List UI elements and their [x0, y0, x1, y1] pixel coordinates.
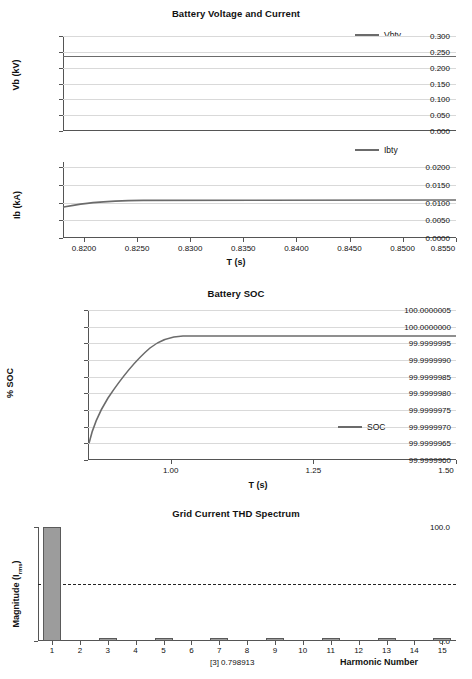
y-tick-label: 0.100 — [430, 95, 450, 104]
gridline — [63, 99, 456, 100]
x-tick-label: 0.8450 — [337, 244, 361, 253]
x-tick-label: 0.8300 — [178, 244, 202, 253]
chart-battery-current: Ibty Ib (kA) 0.0200 0.0150 0.0100 0.0050… — [0, 145, 472, 280]
y-tick — [59, 52, 63, 53]
legend-swatch-soc — [338, 426, 362, 428]
x-tick — [359, 641, 360, 645]
x-tick — [171, 460, 172, 464]
x-tick-label: 8 — [245, 646, 249, 655]
bar-harmonic-1 — [43, 527, 61, 641]
legend-label-soc: SOC — [367, 422, 385, 432]
y-tick — [59, 84, 63, 85]
x-tick-label: 1.00 — [163, 466, 179, 475]
y-tick-label: 0.150 — [430, 79, 450, 88]
x-tick — [80, 641, 81, 645]
thd-simulation-scope-window: Battery Voltage and Current Vbty Vb (kV)… — [0, 0, 472, 679]
x-tick — [414, 641, 415, 645]
axis-label-soc: % SOC — [5, 360, 15, 406]
x-tick-label: 0.8550 — [431, 244, 455, 253]
x-tick — [191, 641, 192, 645]
gridline — [63, 68, 456, 69]
x-tick-label: 0.8500 — [390, 244, 414, 253]
x-tick-label: 0.8250 — [125, 244, 149, 253]
y-tick — [59, 131, 63, 132]
axis-label-t-soc: T (s) — [60, 480, 456, 490]
thd-threshold-line — [38, 584, 456, 585]
series-trace-soc — [88, 310, 456, 460]
x-tick — [275, 641, 276, 645]
x-tick — [243, 238, 244, 242]
x-tick — [296, 238, 297, 242]
axis-label-t-current: T (s) — [0, 257, 472, 267]
plot-area-battery-soc: 100.0000005 100.0000000 99.9999995 99.99… — [88, 310, 456, 460]
x-tick-label: 12 — [354, 646, 363, 655]
x-tick — [52, 641, 53, 645]
x-tick — [247, 641, 248, 645]
chart-title-battery-voltage: Battery Voltage and Current — [0, 8, 472, 19]
x-tick-label: 11 — [327, 646, 335, 655]
x-tick-label: 2 — [78, 646, 82, 655]
x-tick — [387, 641, 388, 645]
x-tick — [108, 641, 109, 645]
x-tick — [190, 238, 191, 242]
chart-battery-soc: Battery SOC % SOC 100.0000005 100.000000… — [0, 288, 472, 500]
x-tick-label: 1.50 — [438, 466, 454, 475]
y-tick-label: 0.200 — [430, 63, 450, 72]
x-tick — [331, 641, 332, 645]
x-tick — [219, 641, 220, 645]
x-tick — [350, 238, 351, 242]
plot-area-battery-voltage: 0.300 0.250 0.200 0.150 0.100 0.050 0.00… — [63, 36, 456, 131]
x-tick-label: 9 — [273, 646, 277, 655]
chart-title-battery-soc: Battery SOC — [0, 288, 472, 299]
y-tick — [59, 99, 63, 100]
y-tick — [59, 238, 63, 239]
x-tick-label: 1.25 — [306, 466, 322, 475]
x-tick-label: 7 — [217, 646, 221, 655]
y-tick-label: 0.000 — [430, 127, 450, 136]
x-tick — [136, 641, 137, 645]
x-tick — [303, 641, 304, 645]
x-tick — [456, 460, 457, 464]
chart-battery-voltage: Battery Voltage and Current Vbty Vb (kV)… — [0, 8, 472, 140]
chart-title-grid-current-thd: Grid Current THD Spectrum — [0, 508, 472, 519]
x-tick-label: 0.8400 — [284, 244, 308, 253]
gridline — [63, 36, 456, 37]
y-tick-label: 0.050 — [430, 111, 450, 120]
x-tick-label: 4 — [133, 646, 137, 655]
x-tick — [442, 641, 443, 645]
x-tick-label: 10 — [298, 646, 307, 655]
x-axis-line-vb — [63, 130, 456, 131]
axis-label-vb: Vb (kV) — [11, 52, 21, 98]
axis-label-harmonic-number: Harmonic Number — [340, 657, 418, 667]
x-tick — [313, 460, 314, 464]
y-tick-label: 0.300 — [430, 32, 450, 41]
y-tick — [34, 641, 38, 642]
y-tick — [84, 460, 88, 461]
x-tick — [164, 641, 165, 645]
x-tick-label: 5 — [161, 646, 165, 655]
x-tick-label: 0.8350 — [231, 244, 255, 253]
x-tick — [137, 238, 138, 242]
x-tick — [84, 238, 85, 242]
legend-label-ibty: Ibty — [384, 145, 398, 155]
axis-label-magnitude-close: ) — [11, 560, 21, 563]
y-tick — [34, 527, 38, 528]
x-tick — [456, 238, 457, 242]
x-tick-label: 13 — [382, 646, 391, 655]
y-tick — [59, 68, 63, 69]
x-tick-label: 3 — [105, 646, 109, 655]
plot-area-battery-current: 0.0200 0.0150 0.0100 0.0050 0.0000 0.820… — [63, 162, 456, 238]
legend-soc: SOC — [338, 422, 385, 432]
plot-area-grid-current-thd: 100.0 0.0 1 2 3 4 5 6 — [38, 527, 456, 641]
x-tick-label: 14 — [410, 646, 419, 655]
chart-grid-current-thd: Grid Current THD Spectrum Magnitude (Irm… — [0, 508, 472, 679]
axis-label-magnitude: Magnitude (Irms) — [11, 544, 23, 644]
gridline — [63, 115, 456, 116]
legend-ibty: Ibty — [355, 145, 398, 155]
axis-label-magnitude-base: Magnitude (I — [11, 574, 21, 627]
gridline — [63, 84, 456, 85]
x-tick-label: 6 — [189, 646, 193, 655]
axis-label-magnitude-sub: rms — [17, 563, 23, 574]
x-tick-label: 15 — [438, 646, 447, 655]
axis-label-ib: Ib (kA) — [12, 182, 22, 228]
